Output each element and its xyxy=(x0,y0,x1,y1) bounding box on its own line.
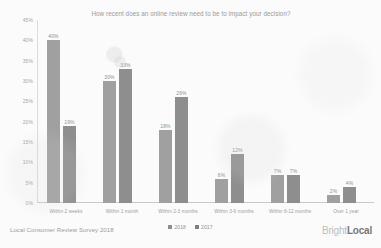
bar-value-label: 18% xyxy=(160,123,170,129)
bar-2018[interactable]: 40% xyxy=(47,40,60,203)
y-axis-tick: 20% xyxy=(23,119,33,125)
bar-2017[interactable]: 33% xyxy=(119,69,132,203)
bar-2017[interactable]: 26% xyxy=(175,97,188,203)
bar-2017[interactable]: 19% xyxy=(63,126,76,203)
y-axis-tick: 0% xyxy=(26,200,33,206)
y-axis-tick: 40% xyxy=(23,37,33,43)
y-axis-tick: 30% xyxy=(23,78,33,84)
bar-value-label: 2% xyxy=(330,188,337,194)
bar-group: 6%12% xyxy=(206,20,262,203)
bar-group: 40%19% xyxy=(38,20,94,203)
bar-value-label: 7% xyxy=(290,168,297,174)
brightlocal-logo: BrightLocal xyxy=(322,226,372,236)
bar-value-label: 26% xyxy=(176,90,186,96)
chart-page: How recent does an online review need to… xyxy=(0,0,381,248)
x-axis-category-label: Within 1 month xyxy=(94,209,150,214)
y-axis-tick: 25% xyxy=(23,98,33,104)
x-axis-category-label: Within 6-12 months xyxy=(262,209,318,214)
y-axis: 45%40%35%30%25%20%15%10%5%0% xyxy=(0,20,37,203)
brand-bright-text: Bright xyxy=(322,225,347,236)
chart-title: How recent does an online review need to… xyxy=(62,10,320,17)
legend-swatch-icon xyxy=(195,225,199,229)
bar-value-label: 6% xyxy=(218,172,225,178)
legend-item[interactable]: 2017 xyxy=(195,224,213,230)
y-axis-tick: 35% xyxy=(23,58,33,64)
y-axis-tick: 15% xyxy=(23,139,33,145)
x-axis: Within 2 weeksWithin 1 monthWithin 2-3 m… xyxy=(38,205,374,219)
x-axis-category-label: Within 3-6 months xyxy=(206,209,262,214)
x-axis-category-label: Within 2-3 months xyxy=(150,209,206,214)
legend-label: 2017 xyxy=(201,224,213,230)
x-axis-category-label: Within 2 weeks xyxy=(38,209,94,214)
y-axis-tick: 10% xyxy=(23,159,33,165)
bar-value-label: 40% xyxy=(48,33,58,39)
bar-2018[interactable]: 2% xyxy=(327,195,340,203)
x-axis-category-label: Over 1 year xyxy=(318,209,374,214)
survey-source-label: Local Consumer Review Survey 2018 xyxy=(10,227,114,233)
bar-2018[interactable]: 6% xyxy=(215,179,228,203)
bar-value-label: 33% xyxy=(120,62,130,68)
bar-group: 2%4% xyxy=(318,20,374,203)
bar-2018[interactable]: 18% xyxy=(159,130,172,203)
bar-group: 30%33% xyxy=(94,20,150,203)
bar-2017[interactable]: 7% xyxy=(287,175,300,203)
bar-2017[interactable]: 12% xyxy=(231,154,244,203)
bar-2018[interactable]: 30% xyxy=(103,81,116,203)
bar-value-label: 19% xyxy=(64,119,74,125)
y-axis-tick: 5% xyxy=(26,180,33,186)
legend-label: 2018 xyxy=(174,224,186,230)
legend-swatch-icon xyxy=(168,225,172,229)
legend-item[interactable]: 2018 xyxy=(168,224,186,230)
bars-layer: 40%19%30%33%18%26%6%12%7%7%2%4% xyxy=(38,20,374,203)
bar-2018[interactable]: 7% xyxy=(271,175,284,203)
bar-value-label: 4% xyxy=(346,180,353,186)
bar-value-label: 12% xyxy=(232,147,242,153)
bar-group: 7%7% xyxy=(262,20,318,203)
brand-local-text: Local xyxy=(347,225,372,236)
bar-group: 18%26% xyxy=(150,20,206,203)
bar-value-label: 7% xyxy=(274,168,281,174)
bar-value-label: 30% xyxy=(104,74,114,80)
y-axis-tick: 45% xyxy=(23,17,33,23)
bar-2017[interactable]: 4% xyxy=(343,187,356,203)
